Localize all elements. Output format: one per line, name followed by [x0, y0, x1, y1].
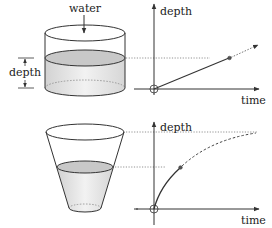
cup-water-surface: [57, 161, 113, 173]
diagram-canvas: water depth depth time: [0, 0, 272, 228]
cup-rim: [46, 124, 124, 140]
top-graph: [134, 4, 259, 95]
top-x-axis-label: time: [241, 94, 266, 107]
bottom-x-axis-label: time: [241, 214, 266, 227]
cup-container: [46, 124, 124, 212]
cylinder-container: [45, 25, 125, 96]
bottom-y-axis-label: depth: [160, 121, 192, 134]
bottom-graph: [136, 122, 259, 225]
bottom-depth-curve-projection: [182, 133, 256, 166]
water-label: water: [69, 2, 102, 15]
bottom-depth-curve: [154, 168, 180, 209]
top-y-axis-label: depth: [160, 5, 192, 18]
cylinder-water-surface: [45, 50, 125, 66]
cylinder-rim: [45, 25, 125, 41]
depth-bracket-label: depth: [9, 66, 41, 79]
cup-water: [57, 167, 113, 212]
top-depth-line: [154, 58, 229, 89]
